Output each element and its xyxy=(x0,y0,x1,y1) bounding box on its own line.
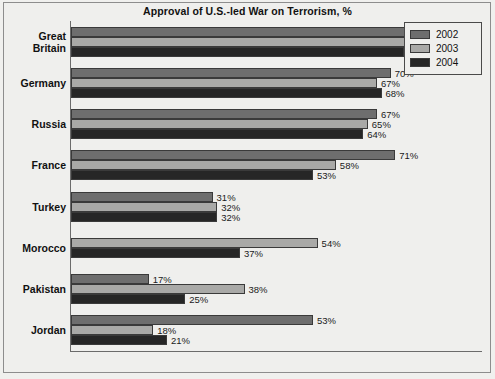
category-label: Turkey xyxy=(0,201,66,213)
bar-row: 65% xyxy=(71,119,495,129)
bar-value-label: 17% xyxy=(149,274,172,285)
legend-label: 2004 xyxy=(436,57,458,68)
category-label-line: Jordan xyxy=(0,324,66,336)
legend-swatch-icon xyxy=(410,30,430,39)
bar-row: 32% xyxy=(71,202,495,212)
category-label: Morocco xyxy=(0,242,66,254)
chart-container: Approval of U.S.-led War on Terrorism, %… xyxy=(0,0,495,379)
legend-label: 2003 xyxy=(436,43,458,54)
bar-2004[interactable] xyxy=(71,129,363,139)
bar-2002[interactable] xyxy=(71,192,213,202)
bar-row: 58% xyxy=(71,160,495,170)
bar-2003[interactable] xyxy=(71,160,336,170)
bar-value-label: 68% xyxy=(382,87,405,98)
category-label: Germany xyxy=(0,77,66,89)
bar-group: France71%58%53% xyxy=(0,150,495,180)
bar-row: 64% xyxy=(71,129,495,139)
bar-value-label: 53% xyxy=(313,170,336,181)
legend-item-2004[interactable]: 2004 xyxy=(410,56,476,69)
bar-row: 54% xyxy=(71,238,495,248)
bar-value-label: 25% xyxy=(185,294,208,305)
bar-value-label: 64% xyxy=(363,129,386,140)
bar-2002[interactable] xyxy=(71,315,313,325)
category-label-line: Russia xyxy=(0,118,66,130)
bar-2003[interactable] xyxy=(71,119,368,129)
bar-row: 53% xyxy=(71,315,495,325)
bar-group: Morocco54%37% xyxy=(0,238,495,258)
bar-2003[interactable] xyxy=(71,202,217,212)
bar-2002[interactable] xyxy=(71,109,377,119)
bar-value-label: 71% xyxy=(395,150,418,161)
category-label: GreatBritain xyxy=(0,30,66,54)
legend-label: 2002 xyxy=(436,29,458,40)
legend-item-2003[interactable]: 2003 xyxy=(410,42,476,55)
bar-row: 67% xyxy=(71,78,495,88)
bar-stack: 31%32%32% xyxy=(71,192,495,222)
legend-swatch-icon xyxy=(410,44,430,53)
bar-2004[interactable] xyxy=(71,294,185,304)
bar-row: 38% xyxy=(71,284,495,294)
legend-item-2002[interactable]: 2002 xyxy=(410,28,476,41)
bar-group: Russia67%65%64% xyxy=(0,109,495,139)
bar-value-label: 54% xyxy=(318,237,341,248)
bar-2002[interactable] xyxy=(71,27,450,37)
bar-stack: 71%58%53% xyxy=(71,150,495,180)
bar-value-label: 53% xyxy=(313,315,336,326)
bar-stack: 53%18%21% xyxy=(71,315,495,345)
bar-row: 31% xyxy=(71,192,495,202)
category-label-line: Britain xyxy=(0,42,66,54)
bar-2004[interactable] xyxy=(71,88,382,98)
bar-row: 25% xyxy=(71,294,495,304)
category-label-line: Pakistan xyxy=(0,283,66,295)
bar-row: 67% xyxy=(71,109,495,119)
category-label-line: Turkey xyxy=(0,201,66,213)
bar-group: Pakistan17%38%25% xyxy=(0,274,495,304)
category-label: Russia xyxy=(0,118,66,130)
bar-2003[interactable] xyxy=(71,238,318,248)
bar-2003[interactable] xyxy=(71,78,377,88)
bar-2004[interactable] xyxy=(71,212,217,222)
bar-row: 53% xyxy=(71,170,495,180)
bar-value-label: 58% xyxy=(336,160,359,171)
bar-value-label: 21% xyxy=(167,335,190,346)
bar-row: 32% xyxy=(71,212,495,222)
bar-2002[interactable] xyxy=(71,274,149,284)
bar-value-label: 32% xyxy=(217,211,240,222)
category-label: Jordan xyxy=(0,324,66,336)
bar-stack: 67%65%64% xyxy=(71,109,495,139)
bar-2002[interactable] xyxy=(71,150,395,160)
bar-row: 17% xyxy=(71,274,495,284)
chart-title: Approval of U.S.-led War on Terrorism, % xyxy=(0,5,495,17)
bar-2004[interactable] xyxy=(71,47,404,57)
category-label-line: Morocco xyxy=(0,242,66,254)
legend-swatch-icon xyxy=(410,58,430,67)
bar-row: 18% xyxy=(71,325,495,335)
bar-2003[interactable] xyxy=(71,284,245,294)
bar-row: 21% xyxy=(71,335,495,345)
chart-legend: 200220032004 xyxy=(404,22,482,75)
bar-group: Turkey31%32%32% xyxy=(0,192,495,222)
bar-stack: 17%38%25% xyxy=(71,274,495,304)
bar-row: 37% xyxy=(71,248,495,258)
category-label: France xyxy=(0,159,66,171)
bar-row: 71% xyxy=(71,150,495,160)
bar-2004[interactable] xyxy=(71,170,313,180)
bar-row: 68% xyxy=(71,88,495,98)
category-label-line: Germany xyxy=(0,77,66,89)
bar-group: Jordan53%18%21% xyxy=(0,315,495,345)
bar-2002[interactable] xyxy=(71,68,391,78)
category-label-line: France xyxy=(0,159,66,171)
category-axis-line xyxy=(70,351,482,352)
bar-2004[interactable] xyxy=(71,335,167,345)
category-label: Pakistan xyxy=(0,283,66,295)
bar-2003[interactable] xyxy=(71,37,436,47)
bar-value-label: 38% xyxy=(245,284,268,295)
category-label-line: Great xyxy=(0,30,66,42)
bar-value-label: 37% xyxy=(240,247,263,258)
bar-2004[interactable] xyxy=(71,248,240,258)
bar-stack: 54%37% xyxy=(71,238,495,258)
bar-2003[interactable] xyxy=(71,325,153,335)
